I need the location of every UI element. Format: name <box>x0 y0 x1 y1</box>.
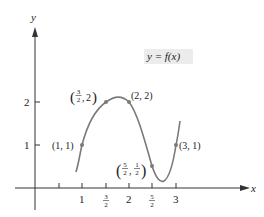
point-label-2-2: (2, 2) <box>131 90 153 102</box>
function-label-text: y = f(x) <box>146 50 180 63</box>
point-5-2-1-2 <box>150 164 154 168</box>
svg-text:(: ( <box>70 89 75 106</box>
y-tick-label-2: 2 <box>24 96 30 108</box>
svg-text:,: , <box>129 165 132 176</box>
x-ticks: 1 2 3 3 2 5 2 <box>59 183 179 209</box>
svg-text:2: 2 <box>150 201 154 209</box>
x-axis-label: x <box>250 182 256 194</box>
function-graph: y x 1 2 1 2 3 3 2 5 2 <box>0 0 264 217</box>
point-3-1 <box>174 143 178 147</box>
x-tick-label-1: 1 <box>79 193 85 205</box>
svg-text:(: ( <box>116 162 121 180</box>
svg-text:2: 2 <box>123 169 127 177</box>
y-ticks: 1 2 <box>24 96 40 151</box>
x-tick-label-3: 3 <box>173 193 179 205</box>
x-axis-arrow-icon <box>240 185 250 191</box>
y-axis-label: y <box>30 11 36 23</box>
axes <box>15 27 250 210</box>
x-tick-label-3-2: 3 2 <box>103 193 109 209</box>
y-tick-label-1: 1 <box>24 139 30 151</box>
y-axis-arrow-icon <box>32 27 38 37</box>
svg-text:1: 1 <box>135 161 139 169</box>
x-tick-label-5-2: 5 2 <box>149 193 155 209</box>
svg-text:3: 3 <box>104 193 108 201</box>
svg-text:): ) <box>141 162 146 180</box>
point-label-3-1: (3, 1) <box>179 140 201 152</box>
point-label-1-1: (1, 1) <box>52 140 74 152</box>
svg-text:3: 3 <box>77 88 81 96</box>
point-label-5-2-1-2: ( 5 2 , 1 2 ) <box>116 161 146 180</box>
svg-text:2: 2 <box>135 169 139 177</box>
marked-points <box>80 100 178 168</box>
svg-text:2: 2 <box>104 201 108 209</box>
svg-text:2: 2 <box>77 96 81 104</box>
point-1-1 <box>80 143 84 147</box>
svg-text:): ) <box>92 89 97 106</box>
svg-text:5: 5 <box>150 193 154 201</box>
point-3-2-2 <box>104 100 108 104</box>
svg-text:5: 5 <box>123 161 127 169</box>
svg-text:,: , <box>82 92 85 103</box>
point-label-3-2-2: ( 3 2 , 2 ) <box>70 88 97 106</box>
x-tick-label-2: 2 <box>126 193 132 205</box>
function-label: y = f(x) <box>144 49 193 64</box>
svg-text:2: 2 <box>86 92 91 103</box>
